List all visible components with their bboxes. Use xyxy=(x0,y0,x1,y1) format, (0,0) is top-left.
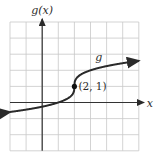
series-label-g: g xyxy=(95,51,102,64)
point-2-1 xyxy=(72,84,77,89)
point-label: (2, 1) xyxy=(78,80,106,92)
x-axis-label: x xyxy=(147,97,154,110)
chart: x g(x) (2, 1) g xyxy=(0,0,157,159)
y-axis-label: g(x) xyxy=(31,4,53,17)
